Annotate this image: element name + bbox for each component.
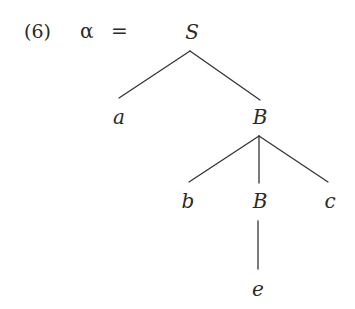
edge-S-B	[190, 51, 260, 100]
tree-edges	[0, 0, 355, 309]
edge-B-c	[259, 136, 328, 182]
node-e: e	[252, 279, 264, 299]
node-a: a	[113, 107, 125, 127]
node-b: b	[182, 191, 195, 211]
tree-diagram: (6) α = S a B b B c e	[0, 0, 355, 309]
edge-S-a	[119, 51, 190, 98]
node-root-S: S	[185, 22, 199, 42]
edge-B-b	[189, 136, 259, 182]
node-c: c	[324, 191, 335, 211]
node-B: B	[253, 107, 268, 127]
node-B-inner: B	[253, 191, 268, 211]
